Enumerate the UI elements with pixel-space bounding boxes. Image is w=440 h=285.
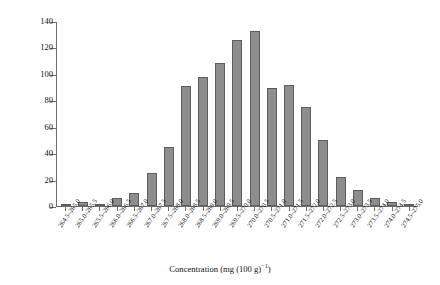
bar-slot xyxy=(229,22,246,206)
bar-slot xyxy=(177,22,194,206)
y-tick-label: 120 xyxy=(40,42,53,53)
x-label-slot: 265.0–265.5 xyxy=(74,211,91,257)
bar-slot xyxy=(212,22,229,206)
bar-slot xyxy=(384,22,401,206)
x-label-slot: 274.5–275.0 xyxy=(401,211,418,257)
histogram-bar xyxy=(215,63,225,206)
x-label-slot: 268.0–268.5 xyxy=(177,211,194,257)
bar-slot xyxy=(263,22,280,206)
y-tick-label: 0 xyxy=(49,201,53,212)
bar-slot xyxy=(160,22,177,206)
bar-slot xyxy=(349,22,366,206)
histogram-bar xyxy=(267,88,277,206)
bar-slot xyxy=(246,22,263,206)
histogram-bar xyxy=(318,140,328,206)
x-label-slot: 267.5–268.0 xyxy=(160,211,177,257)
bar-slot xyxy=(332,22,349,206)
bar-series xyxy=(57,22,418,206)
x-label-slot: 267.0–267.5 xyxy=(143,211,160,257)
x-axis-title-main: Concentration (mg (100 g) xyxy=(169,264,261,274)
y-tick-label: 100 xyxy=(40,69,53,80)
bar-slot xyxy=(401,22,418,206)
y-tick-label: 140 xyxy=(40,16,53,27)
y-tick-label: 80 xyxy=(45,95,54,106)
plot-area: 020406080100120140 xyxy=(56,22,418,207)
x-label-slot: 269.0–269.5 xyxy=(212,211,229,257)
x-label-slot: 266.5–267.0 xyxy=(126,211,143,257)
x-label-slot: 271.5–272.0 xyxy=(298,211,315,257)
histogram-bar xyxy=(284,85,294,206)
x-axis-title-exponent: −1 xyxy=(261,262,268,269)
x-label-slot: 270.5–271.0 xyxy=(263,211,280,257)
histogram-bar xyxy=(250,31,260,206)
x-label-slot: 264.5–265.0 xyxy=(57,211,74,257)
x-axis-title-tail: ) xyxy=(268,264,271,274)
x-label-slot: 272.5–273.0 xyxy=(332,211,349,257)
histogram-bar xyxy=(301,107,311,206)
bar-slot xyxy=(315,22,332,206)
x-axis-tick-labels: 264.5–265.0265.0–265.5265.5–266.0266.0–2… xyxy=(57,211,418,257)
x-label-slot: 270.0–270.5 xyxy=(246,211,263,257)
y-tick-label: 20 xyxy=(45,175,54,186)
bar-slot xyxy=(280,22,297,206)
bar-slot xyxy=(195,22,212,206)
y-tick-label: 60 xyxy=(45,122,54,133)
histogram-bar xyxy=(164,147,174,206)
x-label-slot: 269.5–270.0 xyxy=(229,211,246,257)
histogram-figure: Frequency 020406080100120140 264.5–265.0… xyxy=(0,0,440,285)
histogram-bar xyxy=(198,77,208,206)
bar-slot xyxy=(143,22,160,206)
x-label-slot: 266.0–266.5 xyxy=(109,211,126,257)
histogram-bar xyxy=(232,40,242,206)
bar-slot xyxy=(74,22,91,206)
x-label-slot: 265.5–266.0 xyxy=(91,211,108,257)
bar-slot xyxy=(126,22,143,206)
x-label-slot: 268.5–269.0 xyxy=(195,211,212,257)
y-tick-label: 40 xyxy=(45,148,54,159)
bar-slot xyxy=(109,22,126,206)
x-label-slot: 274.0–274.5 xyxy=(384,211,401,257)
x-label-slot: 273.5–274.0 xyxy=(366,211,383,257)
bar-slot xyxy=(298,22,315,206)
x-label-slot: 272.0–272.5 xyxy=(315,211,332,257)
bar-slot xyxy=(366,22,383,206)
bar-slot xyxy=(91,22,108,206)
x-label-slot: 273.0–273.5 xyxy=(349,211,366,257)
x-axis-title: Concentration (mg (100 g)−1) xyxy=(0,262,440,274)
bar-slot xyxy=(57,22,74,206)
x-label-slot: 271.0–271.5 xyxy=(280,211,297,257)
histogram-bar xyxy=(181,86,191,206)
